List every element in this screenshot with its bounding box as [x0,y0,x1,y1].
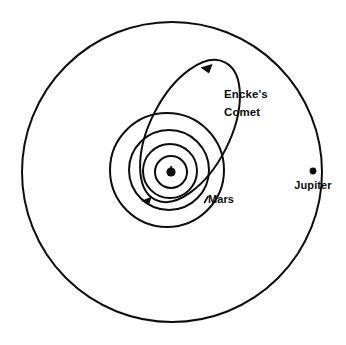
comet-direction-arrow-icon [201,64,213,74]
label-mars: Mars [208,193,234,205]
orbit-encke-comet [119,44,260,218]
diagram-canvas: Encke's Comet Mars Jupiter [0,0,346,345]
orbit-encke-comet-group [119,44,260,218]
orbital-diagram-figure: Encke's Comet Mars Jupiter [0,0,346,345]
label-encke-comet-line2: Comet [224,106,260,118]
label-jupiter: Jupiter [294,179,332,191]
sun-body [166,166,175,177]
label-encke-comet-line1: Encke's [224,88,268,100]
jupiter-marker-dot [310,168,317,175]
